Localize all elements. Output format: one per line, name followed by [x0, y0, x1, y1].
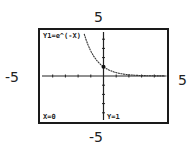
trace-cursor	[102, 65, 106, 69]
x-max-label: 5	[178, 73, 187, 87]
y-min-label: -5	[89, 130, 103, 144]
function-curve	[84, 34, 167, 76]
calculator-graph-screen: Y1=e^(-X) X=0 Y=1	[38, 28, 169, 124]
x-readout: X=0	[43, 114, 56, 121]
equation-label: Y1=e^(-X)	[43, 33, 81, 40]
graph-plot	[40, 30, 167, 122]
y-readout: Y=1	[107, 114, 120, 121]
y-max-label: 5	[94, 10, 103, 24]
x-min-label: -5	[5, 70, 19, 84]
